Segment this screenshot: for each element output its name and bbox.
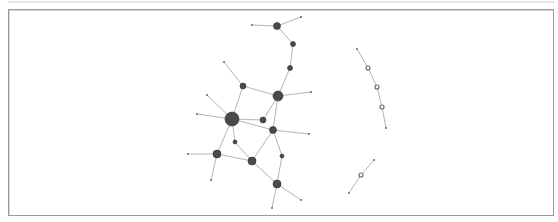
graph-node[interactable]: [270, 127, 277, 134]
graph-edge: [368, 68, 377, 87]
graph-leaf-node[interactable]: [187, 153, 189, 155]
graph-node[interactable]: [248, 157, 256, 165]
graph-edge: [357, 49, 368, 68]
graph-edge: [252, 130, 273, 161]
graph-leaf-node[interactable]: [373, 159, 375, 161]
graph-leaf-node[interactable]: [300, 199, 302, 201]
graph-leaf-node[interactable]: [271, 207, 273, 209]
graph-edge: [273, 130, 282, 156]
graph-leaf-node[interactable]: [356, 48, 358, 50]
graph-edge: [361, 160, 374, 175]
graph-edge: [243, 86, 278, 96]
graph-node[interactable]: [274, 23, 281, 30]
graph-edge: [377, 87, 382, 107]
graph-leaf-node[interactable]: [348, 192, 350, 194]
graph-edge: [252, 161, 277, 184]
graph-leaf-node[interactable]: [385, 127, 387, 129]
graph-node[interactable]: [233, 140, 237, 144]
graph-node-hollow[interactable]: [375, 85, 379, 89]
graph-edge: [273, 130, 309, 134]
graph-leaf-node[interactable]: [300, 16, 302, 18]
graph-leaf-node[interactable]: [310, 91, 312, 93]
graph-node[interactable]: [260, 117, 266, 123]
edge-layer: [188, 17, 386, 208]
graph-node-hollow[interactable]: [359, 173, 363, 177]
graph-node[interactable]: [225, 112, 239, 126]
graph-edge: [224, 62, 243, 86]
graph-leaf-node[interactable]: [206, 94, 208, 96]
graph-node[interactable]: [291, 42, 296, 47]
graph-node-hollow[interactable]: [366, 66, 370, 70]
graph-leaf-node[interactable]: [196, 113, 198, 115]
graph-leaf-node[interactable]: [210, 179, 212, 181]
graph-node[interactable]: [213, 150, 221, 158]
graph-node[interactable]: [280, 154, 284, 158]
graph-edge: [277, 184, 301, 200]
node-layer: [187, 16, 387, 209]
graph-edge: [349, 175, 361, 193]
graph-node-hollow[interactable]: [380, 105, 384, 109]
graph-node[interactable]: [288, 66, 293, 71]
network-graph-canvas[interactable]: [0, 0, 558, 222]
graph-edge: [382, 107, 386, 128]
graph-edge: [277, 17, 301, 26]
graph-node[interactable]: [240, 83, 246, 89]
graph-node[interactable]: [273, 180, 281, 188]
graph-leaf-node[interactable]: [223, 61, 225, 63]
graph-leaf-node[interactable]: [251, 24, 253, 26]
graph-edge: [290, 44, 293, 68]
graph-node[interactable]: [273, 91, 283, 101]
graph-leaf-node[interactable]: [308, 133, 310, 135]
